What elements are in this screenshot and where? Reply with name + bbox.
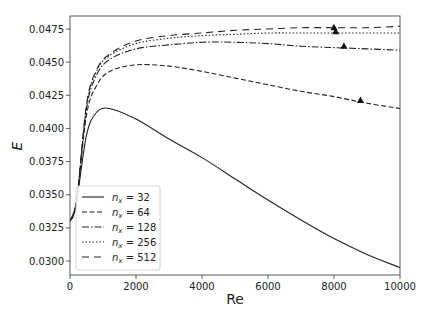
x-tick-label: 6000 xyxy=(255,281,280,292)
line-chart: 0200040006000800010000 0.03000.03250.035… xyxy=(0,0,430,313)
y-axis: 0.03000.03250.03500.03750.04000.04250.04… xyxy=(29,24,70,267)
y-axis-label: E xyxy=(9,141,25,150)
y-tick-label: 0.0375 xyxy=(29,156,64,167)
triangle-marker-icon xyxy=(340,42,347,49)
y-tick-label: 0.0325 xyxy=(29,222,64,233)
x-axis: 0200040006000800010000 xyxy=(67,275,416,292)
y-tick-label: 0.0475 xyxy=(29,24,64,35)
x-tick-label: 8000 xyxy=(321,281,346,292)
x-tick-label: 10000 xyxy=(384,281,416,292)
y-tick-label: 0.0400 xyxy=(29,123,64,134)
triangle-marker-icon xyxy=(357,97,364,104)
legend: nx = 32nx = 64nx = 128nx = 256nx = 512 xyxy=(76,186,160,270)
markers-layer xyxy=(331,24,364,103)
y-tick-label: 0.0300 xyxy=(29,256,64,267)
y-tick-label: 0.0350 xyxy=(29,189,64,200)
y-tick-label: 0.0450 xyxy=(29,57,64,68)
x-tick-label: 2000 xyxy=(123,281,148,292)
x-tick-label: 0 xyxy=(67,281,73,292)
x-tick-label: 4000 xyxy=(189,281,214,292)
x-axis-label: Re xyxy=(226,291,244,307)
y-tick-label: 0.0425 xyxy=(29,90,64,101)
triangle-marker-icon xyxy=(331,24,338,31)
